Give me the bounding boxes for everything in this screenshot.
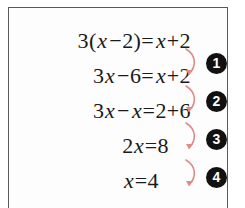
eq3-constant: =2+6 — [143, 98, 191, 123]
step-badge-2: 2 — [206, 91, 227, 112]
eq2-constant: +2 — [167, 63, 191, 88]
eq2-variable-right: x — [156, 63, 167, 88]
eq1-coefficient: 3( — [78, 28, 97, 53]
eq3-middle: − — [116, 98, 132, 123]
eq3-variable-left: x — [104, 98, 115, 123]
equation-line-5: x=4 — [124, 170, 159, 192]
equation-line-1: 3(x−2)=x+2 — [78, 30, 191, 52]
step-arrow-3-icon — [181, 120, 203, 160]
eq1-variable-left: x — [97, 28, 108, 53]
equation-line-3: 3x−x=2+6 — [93, 100, 191, 122]
eq5-constant: =4 — [135, 168, 159, 193]
step-badge-3: 3 — [206, 129, 227, 150]
eq4-variable: x — [134, 133, 145, 158]
eq4-coefficient: 2 — [122, 133, 133, 158]
equation-worksheet: 3(x−2)=x+2 3x−6=x+2 3x−x=2+6 2x=8 x=4 — [0, 0, 245, 208]
eq3-coefficient: 3 — [93, 98, 104, 123]
step-arrow-4-icon — [181, 157, 203, 197]
eq2-coefficient: 3 — [93, 63, 104, 88]
step-badge-1: 1 — [206, 53, 227, 74]
eq4-constant: =8 — [145, 133, 169, 158]
eq1-constant: +2 — [167, 28, 191, 53]
equation-line-2: 3x−6=x+2 — [93, 65, 191, 87]
eq2-variable-left: x — [104, 63, 115, 88]
eq1-variable-right: x — [156, 28, 167, 53]
content-frame: 3(x−2)=x+2 3x−6=x+2 3x−x=2+6 2x=8 x=4 — [8, 7, 228, 208]
equation-line-4: 2x=8 — [122, 135, 169, 157]
eq2-middle: −6= — [116, 63, 156, 88]
eq5-variable: x — [124, 168, 135, 193]
step-badge-4: 4 — [206, 167, 227, 188]
eq1-middle: −2)= — [108, 28, 156, 53]
eq3-variable-right: x — [131, 98, 142, 123]
